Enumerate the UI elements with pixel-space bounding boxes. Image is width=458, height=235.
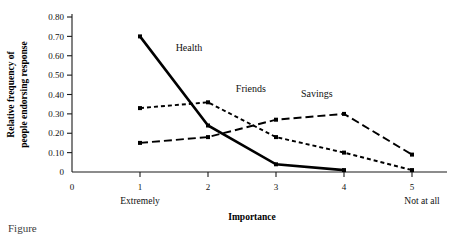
x-tick-label-1: 1 <box>138 182 143 192</box>
chart-figure: 00.100.200.300.400.500.600.700.80012345E… <box>0 0 458 235</box>
x-tick-label-3: 3 <box>274 182 279 192</box>
x-anchor-high-label: Not at all <box>404 196 440 206</box>
data-point-savings-5 <box>410 153 414 157</box>
series-label-friends: Friends <box>236 83 266 94</box>
data-point-savings-2 <box>206 135 210 139</box>
y-axis-title-line-1: Relative frequency of <box>6 50 16 137</box>
data-point-health-1 <box>138 34 142 38</box>
data-point-friends-3 <box>274 135 278 139</box>
x-axis-title: Importance <box>228 212 276 222</box>
y-tick-label-0.20: 0.20 <box>48 128 64 138</box>
y-tick-label-0.50: 0.50 <box>48 70 64 80</box>
data-point-friends-1 <box>138 106 142 110</box>
x-anchor-low-label: Extremely <box>120 196 160 206</box>
data-point-savings-1 <box>138 141 142 145</box>
series-label-health: Health <box>176 42 203 53</box>
y-tick-label-0.30: 0.30 <box>48 109 64 119</box>
data-point-health-3 <box>274 162 278 166</box>
y-tick-label-0.10: 0.10 <box>48 148 64 158</box>
y-axis-title: Relative frequency ofpeople endorsing re… <box>6 41 29 147</box>
y-tick-label-0.70: 0.70 <box>48 32 64 42</box>
y-tick-label-0: 0 <box>60 167 65 177</box>
y-tick-label-0.80: 0.80 <box>48 12 64 22</box>
data-point-health-2 <box>206 124 210 128</box>
data-point-friends-4 <box>342 151 346 155</box>
data-point-friends-2 <box>206 100 210 104</box>
line-chart-canvas: 00.100.200.300.400.500.600.700.80012345E… <box>0 0 458 235</box>
data-point-savings-4 <box>342 112 346 116</box>
data-point-friends-5 <box>410 168 414 172</box>
y-tick-label-0.60: 0.60 <box>48 51 64 61</box>
data-point-health-4 <box>342 168 346 172</box>
data-point-savings-3 <box>274 118 278 122</box>
x-tick-label-2: 2 <box>206 182 211 192</box>
figure-caption: Figure <box>8 222 37 234</box>
series-line-health <box>140 36 344 170</box>
x-tick-label-0: 0 <box>70 182 75 192</box>
x-tick-label-5: 5 <box>410 182 415 192</box>
y-tick-label-0.40: 0.40 <box>48 90 64 100</box>
y-axis-title-line-2: people endorsing response <box>19 41 29 147</box>
x-tick-label-4: 4 <box>342 182 347 192</box>
series-label-savings: Savings <box>301 88 333 99</box>
